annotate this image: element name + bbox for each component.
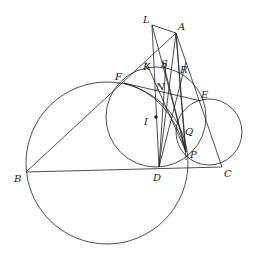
point-i bbox=[154, 115, 158, 119]
label-n: N bbox=[155, 81, 166, 92]
label-d: D bbox=[152, 172, 161, 183]
label-k: K bbox=[142, 61, 151, 72]
label-i: I bbox=[143, 116, 149, 127]
label-p: P bbox=[189, 149, 197, 160]
label-a: A bbox=[177, 21, 185, 32]
label-c: C bbox=[224, 168, 232, 179]
segment-la bbox=[152, 25, 176, 33]
label-r: R bbox=[179, 64, 188, 75]
segment-ac bbox=[176, 33, 222, 167]
segment-ds bbox=[159, 62, 166, 167]
label-e: E bbox=[200, 89, 209, 100]
label-q: Q bbox=[185, 126, 193, 137]
label-f: F bbox=[114, 71, 123, 82]
geometry-diagram: L A K S R F N E I Q P B D C bbox=[0, 0, 256, 260]
label-l: L bbox=[142, 14, 150, 25]
label-b: B bbox=[13, 173, 21, 184]
label-s: S bbox=[161, 58, 168, 69]
segment-bc bbox=[26, 167, 222, 172]
segment-ad bbox=[159, 33, 176, 167]
